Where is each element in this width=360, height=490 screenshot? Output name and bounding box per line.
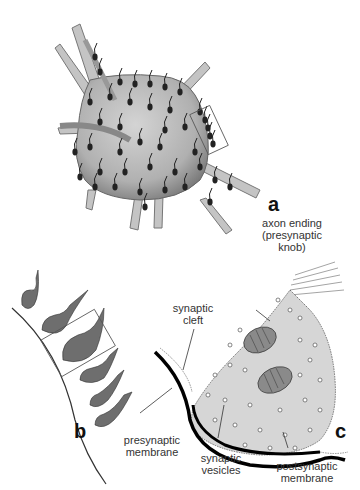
- label-postsynaptic-membrane: postsynaptic membrane: [262, 460, 352, 484]
- label-axon-ending-line1: axon ending: [242, 217, 342, 229]
- label-presynaptic-membrane-line2: membrane: [112, 446, 192, 458]
- label-synaptic-vesicles-line1: synaptic: [186, 452, 256, 464]
- label-presynaptic-membrane: presynaptic membrane: [112, 434, 192, 458]
- label-synaptic-vesicles: synaptic vesicles: [186, 452, 256, 476]
- label-axon-ending: axon ending (presynaptic knob): [242, 217, 342, 253]
- label-synaptic-cleft: synaptic cleft: [158, 302, 228, 326]
- label-synaptic-cleft-line1: synaptic: [158, 302, 228, 314]
- label-presynaptic-membrane-line1: presynaptic: [112, 434, 192, 446]
- label-synaptic-cleft-line2: cleft: [158, 314, 228, 326]
- label-axon-ending-line2: (presynaptic: [242, 229, 342, 241]
- panel-label-b: b: [74, 420, 86, 443]
- label-axon-ending-line3: knob): [242, 241, 342, 253]
- label-postsynaptic-membrane-line2: membrane: [262, 472, 352, 484]
- label-synaptic-vesicles-line2: vesicles: [186, 464, 256, 476]
- panel-label-a: a: [268, 193, 279, 216]
- panel-label-c: c: [335, 420, 346, 443]
- label-postsynaptic-membrane-line1: postsynaptic: [262, 460, 352, 472]
- panel-a-neuron: [55, 24, 260, 234]
